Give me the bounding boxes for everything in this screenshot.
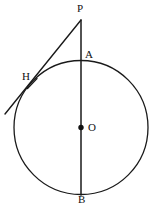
point-label-O: O bbox=[88, 122, 96, 133]
tangent-line-PH bbox=[5, 20, 81, 114]
figure-canvas bbox=[0, 0, 156, 210]
point-label-B: B bbox=[78, 194, 85, 205]
center-point-dot bbox=[78, 125, 83, 130]
geometry-diagram: P A H O B bbox=[0, 0, 156, 210]
point-label-P: P bbox=[77, 3, 83, 14]
point-label-H: H bbox=[22, 71, 30, 82]
point-label-A: A bbox=[85, 49, 93, 60]
